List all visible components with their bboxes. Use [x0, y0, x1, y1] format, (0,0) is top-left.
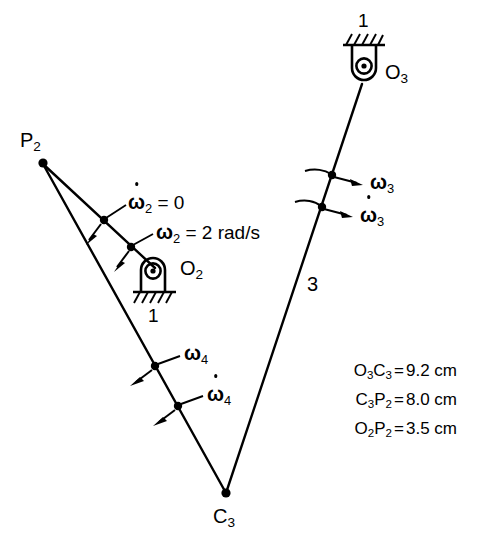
point-label-o3-sub: 3	[401, 71, 409, 86]
point-label-p2: P2	[20, 130, 41, 153]
marker-omega-dot-4	[153, 396, 203, 426]
diagram-canvas	[0, 0, 491, 538]
point-label-o3-letter: O	[385, 61, 401, 83]
joint-dot-p2	[38, 158, 47, 167]
omega-3-symbol: ω	[370, 171, 387, 193]
annotation-omega-3: ω3	[370, 172, 394, 196]
omega-2-sub: 2	[173, 231, 180, 246]
point-label-o2: O2	[180, 258, 203, 281]
dimension-row: O2P2=3.5 cm	[340, 420, 457, 440]
ground-label-bottom: 1	[148, 306, 159, 325]
omega-4-symbol: ω	[184, 342, 201, 364]
dimension-row-lhs: C3P2	[340, 391, 392, 411]
omega-2-symbol: ω	[156, 221, 173, 243]
marker-omega-3	[305, 170, 363, 186]
dimension-row-equals: =	[392, 420, 406, 437]
omega-dot-4-sub: 4	[224, 393, 231, 408]
joint-dot-c3	[221, 488, 230, 497]
ground-pivot-o3	[343, 34, 385, 80]
omega-dot-3-sub: 3	[377, 214, 384, 229]
point-label-p2-letter: P	[20, 129, 33, 151]
omega-dot-4-symbol: ω	[207, 384, 224, 404]
overdot-icon	[367, 195, 371, 199]
dimension-row-equals: =	[392, 362, 406, 379]
omega-dot-2-sub: 2	[145, 201, 152, 216]
dimension-row-value: 9.2 cm	[406, 362, 457, 379]
dimension-row-lhs: O2P2	[340, 420, 392, 440]
point-label-p2-sub: 2	[33, 139, 41, 154]
omega-4-sub: 4	[201, 352, 208, 367]
dimension-row-equals: =	[392, 391, 406, 408]
annotation-omega-2: ω2 = 2 rad/s	[156, 222, 260, 246]
marker-omega-dot-3	[295, 201, 353, 218]
annotation-omega-dot-3: ω3	[360, 205, 384, 229]
ground-pivot-o2	[133, 258, 176, 303]
dimension-row-value: 8.0 cm	[406, 391, 457, 408]
marker-omega-4	[130, 356, 180, 386]
point-label-o2-sub: 2	[196, 267, 204, 282]
omega-dot-2-symbol: ω	[128, 192, 145, 212]
ground-label-top: 1	[358, 11, 369, 30]
overdot-icon	[214, 374, 218, 378]
annotation-omega-dot-4: ω4	[207, 384, 231, 408]
dimensions-block: O3C3=9.2 cm C3P2=8.0 cm O2P2=3.5 cm	[340, 362, 457, 448]
dimension-row-lhs: O3C3	[340, 362, 392, 382]
point-label-o3: O3	[385, 62, 408, 85]
annotation-omega-dot-2: ω2 = 0	[128, 192, 184, 216]
link-2-line	[43, 164, 155, 268]
omega-2-value: = 2 rad/s	[185, 222, 259, 243]
omega-3-sub: 3	[387, 181, 394, 196]
link-number-3: 3	[307, 274, 318, 294]
point-label-c3: C3	[213, 506, 235, 529]
overdot-icon	[135, 182, 139, 186]
annotation-omega-4: ω4	[184, 343, 208, 367]
dimension-row: O3C3=9.2 cm	[340, 362, 457, 382]
dimension-row: C3P2=8.0 cm	[340, 391, 457, 411]
dimension-row-value: 3.5 cm	[406, 420, 457, 437]
point-label-c3-sub: 3	[227, 515, 235, 530]
point-label-o2-letter: O	[180, 257, 196, 279]
point-label-c3-letter: C	[213, 505, 227, 527]
omega-dot-2-value: = 0	[157, 192, 184, 213]
omega-dot-3-symbol: ω	[360, 205, 377, 225]
kinematic-diagram-figure: P2 O2 O3 C3 1 1 3 ω2 = 0 ω2 = 2 rad/s ω3…	[0, 0, 491, 538]
